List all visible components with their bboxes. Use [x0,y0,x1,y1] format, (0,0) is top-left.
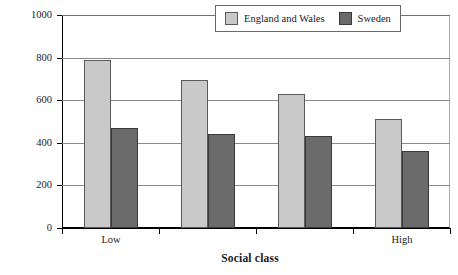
bar-group-2-england-and-wales [181,80,208,228]
x-tick-mark-0 [62,229,63,234]
legend-label-sweden: Sweden [358,13,391,24]
x-axis-title: Social class [179,252,279,264]
y-tick-label-600: 600 [6,95,52,105]
y-tick-label-0: 0 [6,223,52,233]
x-category-label-high: High [362,234,442,246]
y-tick-mark-1000 [57,15,62,16]
y-tick-mark-800 [57,58,62,59]
bar-group-3-sweden [305,136,332,228]
bar-chart-figure: Deaths per 100,000 02004006008001000 Low… [0,0,458,275]
legend-label-england-and-wales: England and Wales [244,13,325,24]
y-tick-label-400: 400 [6,138,52,148]
legend-entry-england-and-wales: England and Wales [225,12,325,25]
y-tick-label-1000: 1000 [6,10,52,20]
x-tick-mark-4 [450,229,451,234]
legend-swatch-icon-england-and-wales [225,12,238,25]
x-tick-mark-3 [353,229,354,234]
x-axis-title-container: Social class [0,252,458,264]
bar-high-england-and-wales [375,119,402,228]
legend-swatch-icon-sweden [339,12,352,25]
bar-high-sweden [402,151,429,228]
gridline-600 [62,100,450,101]
bar-group-3-england-and-wales [278,94,305,228]
y-axis-line [62,15,63,229]
y-tick-mark-200 [57,185,62,186]
bar-group-2-sweden [208,134,235,228]
y-tick-mark-600 [57,100,62,101]
x-category-label-low: Low [71,234,151,246]
bar-low-sweden [111,128,138,228]
y-tick-label-800: 800 [6,53,52,63]
x-tick-mark-1 [159,229,160,234]
gridline-800 [62,58,450,59]
y-axis-title-container: Deaths per 100,000 [0,10,36,230]
bar-low-england-and-wales [84,60,111,228]
y-tick-label-200: 200 [6,180,52,190]
legend-entry-sweden: Sweden [339,12,391,25]
x-tick-mark-2 [256,229,257,234]
chart-legend: England and Wales Sweden [215,5,401,32]
y-tick-mark-400 [57,143,62,144]
